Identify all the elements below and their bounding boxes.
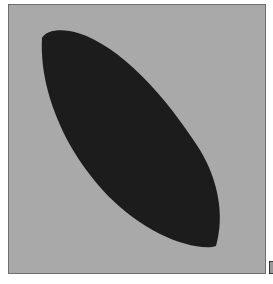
corner-marker bbox=[269, 261, 273, 274]
dark-leaf-shape bbox=[0, 0, 273, 284]
image-canvas bbox=[0, 0, 273, 284]
